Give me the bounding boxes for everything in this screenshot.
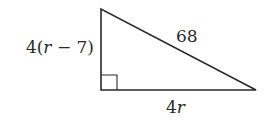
horizontal-leg-label: 4r <box>166 97 186 117</box>
triangle <box>101 9 256 90</box>
hypotenuse-label: 68 <box>176 26 198 46</box>
vertical-leg-label: 4(r − 7) <box>26 37 94 57</box>
right-angle-marker <box>101 75 117 90</box>
right-triangle-diagram: 4(r − 7) 68 4r <box>0 0 271 124</box>
